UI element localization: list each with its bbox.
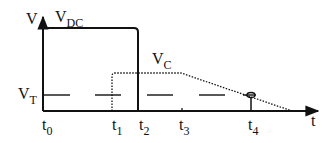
vt-label: VT [18,85,38,107]
vdc-curve [43,28,138,111]
vc-label: VC [152,50,172,72]
t0-label: t0 [42,116,52,138]
voltage-timing-diagram: V VDC VC VT t0 t1 t2 t3 t4 t [0,0,334,143]
t2-label: t2 [139,116,149,138]
t4-label: t4 [248,116,258,138]
t3-label: t3 [179,116,189,138]
x-axis-label: t [311,112,316,129]
vdc-label: VDC [55,8,83,30]
y-axis-label: V [26,10,38,27]
t1-label: t1 [112,116,122,138]
